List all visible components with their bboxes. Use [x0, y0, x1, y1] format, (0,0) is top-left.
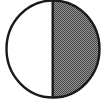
- figure-container: A circle outlined in black, divided by a…: [0, 0, 107, 102]
- half-shaded-circle-graphic: [0, 0, 107, 102]
